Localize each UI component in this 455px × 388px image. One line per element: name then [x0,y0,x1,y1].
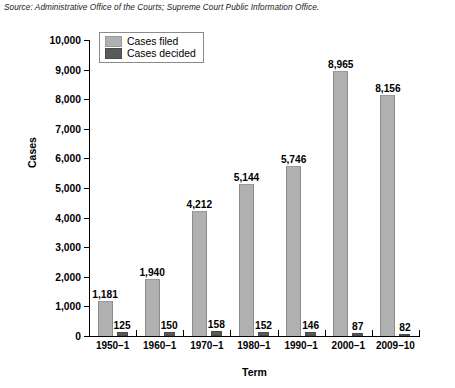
x-tick-mark [278,330,279,337]
bar-group: 8,15682 [372,40,419,336]
x-category-label: 1990–1 [278,340,325,351]
x-axis-title: Term [89,366,420,378]
bar-group: 1,181125 [89,40,136,336]
x-category-label: 2000–1 [325,340,372,351]
y-tick-label: 2,000 [55,271,81,282]
bar-cases-decided[interactable]: 82 [399,334,410,336]
x-tick-mark [183,330,184,337]
y-tick-label: 0 [75,331,81,342]
chart-legend: Cases filedCases decided [99,32,204,63]
bar-value-label: 82 [399,322,410,333]
legend-label: Cases decided [127,48,196,59]
bar-group: 8,96587 [325,40,372,336]
bar-cases-filed[interactable]: 1,181 [98,301,113,336]
y-tick-label: 7,000 [55,123,81,134]
x-tick-mark [230,330,231,337]
legend-label: Cases filed [127,36,178,47]
y-tick-label: 4,000 [55,212,81,223]
bar-group: 5,144152 [230,40,277,336]
legend-item[interactable]: Cases filed [105,36,196,47]
bar-value-label: 1,181 [92,289,118,300]
y-tick-label: 5,000 [55,183,81,194]
x-tick-mark [372,330,373,337]
bar-cases-decided[interactable]: 146 [305,332,316,336]
filed-swatch [105,36,122,47]
bar-chart-figure: Cases Term 01,0002,0003,0004,0005,0006,0… [0,18,455,388]
bar-cases-filed[interactable]: 1,940 [145,279,160,336]
y-tick-label: 9,000 [55,64,81,75]
bar-value-label: 146 [302,320,319,331]
x-category-label: 1980–1 [230,340,277,351]
x-tick-mark [419,330,420,337]
bar-value-label: 4,212 [187,199,213,210]
plot-area: 01,0002,0003,0004,0005,0006,0007,0008,00… [89,40,419,336]
x-axis-line [89,336,420,337]
bar-group: 4,212158 [183,40,230,336]
x-category-label: 1960–1 [136,340,183,351]
bar-value-label: 5,746 [281,154,307,165]
y-axis-title: Cases [26,137,38,168]
source-note: Source: Administrative Office of the Cou… [4,3,319,12]
bar-cases-decided[interactable]: 158 [211,331,222,336]
bar-cases-decided[interactable]: 125 [117,332,128,336]
bar-cases-decided[interactable]: 150 [164,332,175,336]
bar-value-label: 8,156 [375,83,401,94]
bar-cases-filed[interactable]: 5,746 [286,166,301,336]
bar-cases-decided[interactable]: 152 [258,332,269,336]
bar-value-label: 5,144 [234,172,260,183]
decided-swatch [105,48,122,59]
bar-cases-filed[interactable]: 5,144 [239,184,254,336]
bar-value-label: 125 [114,320,131,331]
y-tick-label: 10,000 [50,35,82,46]
bar-value-label: 158 [208,319,225,330]
bar-cases-filed[interactable]: 8,156 [380,95,395,336]
bar-group: 1,940150 [136,40,183,336]
bar-value-label: 8,965 [328,59,354,70]
bar-cases-decided[interactable]: 87 [352,333,363,336]
x-category-label: 2009–10 [372,340,419,351]
bar-cases-filed[interactable]: 8,965 [333,71,348,336]
x-tick-mark [136,330,137,337]
bar-value-label: 87 [352,321,363,332]
bar-cases-filed[interactable]: 4,212 [192,211,207,336]
y-tick-label: 1,000 [55,301,81,312]
x-category-label: 1970–1 [183,340,230,351]
bar-value-label: 150 [161,320,178,331]
x-tick-mark [89,330,90,337]
bar-value-label: 1,940 [139,267,165,278]
bar-value-label: 152 [255,320,272,331]
bar-group: 5,746146 [278,40,325,336]
x-category-label: 1950–1 [89,340,136,351]
x-tick-mark [325,330,326,337]
y-tick-label: 3,000 [55,242,81,253]
legend-item[interactable]: Cases decided [105,48,196,59]
y-tick-label: 8,000 [55,94,81,105]
y-tick-label: 6,000 [55,153,81,164]
